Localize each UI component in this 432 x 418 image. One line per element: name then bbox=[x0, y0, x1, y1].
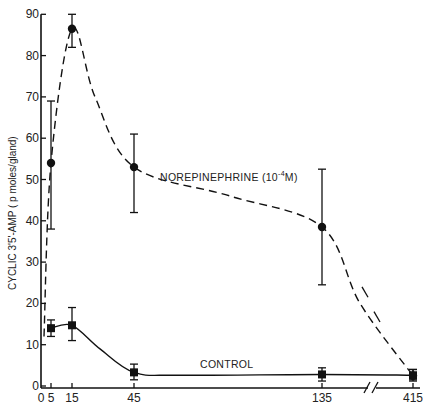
y-tick-label: 10 bbox=[26, 338, 40, 352]
y-tick-label: 20 bbox=[26, 296, 40, 310]
control-point bbox=[409, 371, 417, 379]
x-tick-label: 415 bbox=[403, 391, 423, 405]
x-tick-label: 0 bbox=[38, 391, 45, 405]
norepinephrine-point bbox=[47, 159, 55, 167]
axes: 0102030405060708090051545135415 bbox=[26, 7, 424, 405]
norepinephrine-point bbox=[318, 223, 326, 231]
control-point bbox=[130, 368, 138, 376]
control-point bbox=[68, 321, 76, 329]
series-break-mark bbox=[362, 287, 368, 297]
norepinephrine-line bbox=[44, 27, 413, 375]
y-tick-label: 40 bbox=[26, 214, 40, 228]
control-label: CONTROL bbox=[200, 358, 253, 370]
x-tick-label: 45 bbox=[127, 391, 141, 405]
x-tick-label: 135 bbox=[312, 391, 332, 405]
x-tick-label: 15 bbox=[65, 391, 79, 405]
norepinephrine-point bbox=[68, 25, 76, 33]
chart: 0102030405060708090051545135415 NOREPINE… bbox=[0, 0, 432, 418]
y-tick-label: 60 bbox=[26, 131, 40, 145]
y-axis-label: CYCLIC 3'5'-AMP ( p moles/gland) bbox=[7, 136, 18, 290]
markers bbox=[47, 25, 417, 380]
y-tick-label: 70 bbox=[26, 90, 40, 104]
y-tick-label: 90 bbox=[26, 7, 40, 21]
norepinephrine-point bbox=[130, 163, 138, 171]
error-bars bbox=[47, 14, 417, 381]
norepinephrine-label: NOREPINEPHRINE (10-4M) bbox=[160, 170, 298, 183]
x-tick-label: 5 bbox=[48, 391, 55, 405]
y-tick-label: 80 bbox=[26, 49, 40, 63]
series-lines bbox=[44, 27, 413, 375]
series-break-mark bbox=[374, 312, 380, 322]
control-point bbox=[318, 370, 326, 378]
control-point bbox=[47, 324, 55, 332]
y-tick-label: 50 bbox=[26, 173, 40, 187]
y-tick-label: 30 bbox=[26, 255, 40, 269]
